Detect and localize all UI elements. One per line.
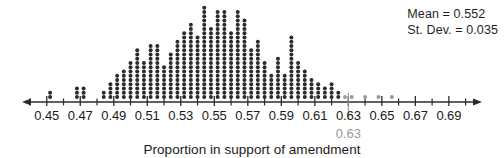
dot bbox=[82, 91, 86, 95]
dot bbox=[189, 48, 193, 52]
dot bbox=[182, 53, 186, 57]
dot bbox=[256, 44, 260, 48]
dot bbox=[256, 78, 260, 82]
dot bbox=[175, 61, 179, 65]
dot bbox=[182, 78, 186, 82]
dot bbox=[309, 78, 313, 82]
dot bbox=[189, 61, 193, 65]
dot bbox=[323, 87, 327, 91]
dot bbox=[222, 65, 226, 69]
dot bbox=[209, 57, 213, 61]
x-tick-label: 0.55 bbox=[202, 108, 227, 123]
dot bbox=[155, 82, 159, 86]
dot-stack bbox=[236, 10, 240, 99]
dot bbox=[303, 91, 307, 95]
dot bbox=[289, 87, 293, 91]
dot bbox=[189, 70, 193, 74]
dot bbox=[269, 91, 273, 95]
dot bbox=[189, 57, 193, 61]
dot bbox=[142, 70, 146, 74]
dot bbox=[229, 61, 233, 65]
dot bbox=[289, 70, 293, 74]
dot bbox=[75, 95, 79, 99]
dot bbox=[216, 10, 220, 14]
dot bbox=[189, 91, 193, 95]
dot bbox=[155, 78, 159, 82]
dot bbox=[196, 70, 200, 74]
dot bbox=[229, 95, 233, 99]
dot bbox=[162, 70, 166, 74]
dot-stack bbox=[303, 70, 307, 99]
dot bbox=[202, 61, 206, 65]
dot-stack bbox=[289, 36, 293, 99]
dot bbox=[196, 36, 200, 40]
dot bbox=[289, 53, 293, 57]
dot bbox=[162, 65, 166, 69]
dot bbox=[209, 78, 213, 82]
dot bbox=[142, 78, 146, 82]
dot bbox=[296, 65, 300, 69]
dot bbox=[102, 91, 106, 95]
dot-stack bbox=[296, 61, 300, 99]
dot-stack bbox=[209, 27, 213, 99]
dot bbox=[182, 95, 186, 99]
dot bbox=[242, 82, 246, 86]
dot bbox=[222, 87, 226, 91]
dot bbox=[229, 74, 233, 78]
dot bbox=[149, 61, 153, 65]
dot bbox=[216, 27, 220, 31]
dot-stack bbox=[336, 91, 340, 99]
dot bbox=[182, 91, 186, 95]
dot bbox=[189, 87, 193, 91]
dot bbox=[256, 74, 260, 78]
x-tick-label: 0.69 bbox=[436, 108, 461, 123]
dot bbox=[202, 91, 206, 95]
x-tick-label: 0.51 bbox=[135, 108, 160, 123]
dot bbox=[269, 82, 273, 86]
dot bbox=[182, 87, 186, 91]
dot bbox=[182, 61, 186, 65]
dot bbox=[175, 48, 179, 52]
dot bbox=[135, 87, 139, 91]
dot bbox=[108, 91, 112, 95]
dot bbox=[202, 53, 206, 57]
dot bbox=[175, 91, 179, 95]
dot bbox=[236, 61, 240, 65]
dot bbox=[249, 82, 253, 86]
dot-stack bbox=[216, 10, 220, 99]
dot bbox=[196, 87, 200, 91]
x-axis-title: Proportion in support of amendment bbox=[0, 142, 504, 157]
dot bbox=[115, 95, 119, 99]
dot bbox=[350, 95, 354, 99]
dot bbox=[209, 74, 213, 78]
highlight-value-label: 0.63 bbox=[336, 126, 361, 141]
dot bbox=[202, 57, 206, 61]
dot bbox=[196, 78, 200, 82]
dot bbox=[122, 74, 126, 78]
dot bbox=[149, 78, 153, 82]
dot bbox=[75, 91, 79, 95]
dot bbox=[316, 82, 320, 86]
dot bbox=[249, 53, 253, 57]
dot bbox=[135, 57, 139, 61]
dot bbox=[162, 82, 166, 86]
dot bbox=[142, 61, 146, 65]
dot bbox=[296, 74, 300, 78]
dot bbox=[135, 65, 139, 69]
dot bbox=[149, 65, 153, 69]
dot bbox=[296, 82, 300, 86]
dot bbox=[129, 65, 133, 69]
dot bbox=[309, 87, 313, 91]
dot bbox=[222, 57, 226, 61]
dot bbox=[175, 40, 179, 44]
dot bbox=[343, 95, 347, 99]
dot bbox=[242, 78, 246, 82]
dot bbox=[242, 48, 246, 52]
dot bbox=[222, 27, 226, 31]
dot bbox=[289, 74, 293, 78]
dot bbox=[169, 61, 173, 65]
dot bbox=[242, 27, 246, 31]
dot bbox=[189, 74, 193, 78]
dot-stack bbox=[82, 87, 86, 99]
dot bbox=[202, 27, 206, 31]
